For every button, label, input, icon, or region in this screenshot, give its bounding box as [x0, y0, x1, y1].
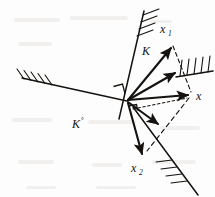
scan-artifacts	[12, 16, 200, 189]
cone-projection-diagram: K K ° x 1 x x 2	[0, 0, 215, 197]
boundary-lower-right-ray	[133, 107, 198, 195]
figure-root: K K ° x 1 x x 2	[0, 0, 215, 197]
label-polar-cone-base: K	[71, 117, 81, 131]
right-angle-upper-left	[114, 84, 126, 94]
hatch-upper-right	[180, 56, 210, 76]
label-x1-subscript: 1	[168, 29, 172, 38]
label-x2: x 2	[130, 161, 143, 177]
label-x2-base: x	[130, 161, 137, 175]
hatch-left-ray	[17, 69, 52, 85]
label-x2-subscript: 2	[139, 168, 143, 177]
boundary-left-ray	[17, 69, 127, 101]
label-x: x	[195, 89, 202, 103]
label-x1-base: x	[159, 22, 166, 36]
vector-arrows	[128, 48, 188, 154]
label-x1: x 1	[159, 22, 172, 38]
boundary-cone-upper-ray	[119, 9, 159, 119]
label-cone-K: K	[141, 44, 151, 58]
dashed-x-to-x2	[147, 98, 189, 151]
label-polar-cone: K °	[71, 116, 84, 131]
label-polar-cone-superscript: °	[81, 116, 84, 124]
